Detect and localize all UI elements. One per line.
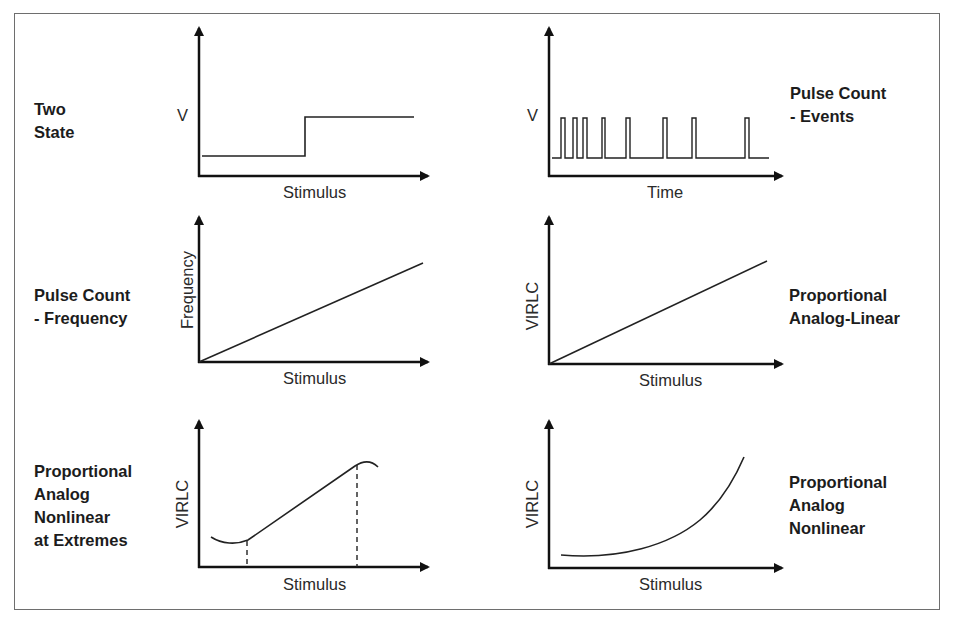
pulse-train	[552, 118, 769, 158]
step-curve	[202, 117, 414, 156]
analog-linear-plot	[548, 217, 782, 365]
panel-title-two-state: Two State	[34, 98, 74, 144]
y-axis-label: VIRLC	[523, 474, 541, 534]
two-state-plot	[198, 28, 428, 177]
panel-title-analog-linear: Proportional Analog-Linear	[789, 284, 900, 330]
title-line: Proportional	[34, 460, 132, 483]
title-line: Analog	[789, 494, 887, 517]
title-line: at Extremes	[34, 529, 132, 552]
x-axis-label: Stimulus	[283, 369, 346, 387]
x-axis-label: Time	[647, 183, 683, 201]
x-axis-label: Stimulus	[639, 575, 702, 593]
linear-curve	[199, 263, 423, 362]
sigmoid-curve	[211, 462, 378, 543]
y-axis-label: Frequency	[178, 250, 196, 330]
analog-nonlinear-plot	[548, 421, 782, 569]
pulse-events-plot	[548, 28, 782, 177]
x-axis-label: Stimulus	[283, 575, 346, 593]
title-line: Analog	[34, 483, 132, 506]
title-line: Nonlinear	[789, 517, 887, 540]
title-line: - Events	[790, 105, 886, 128]
title-line: - Frequency	[34, 307, 130, 330]
title-line: Proportional	[789, 471, 887, 494]
exponential-curve	[561, 457, 744, 556]
panel-title-pulse-events: Pulse Count - Events	[790, 82, 886, 128]
y-axis-label: V	[177, 106, 188, 124]
analog-nonlinear-extremes-plot	[198, 421, 428, 568]
title-line: State	[34, 121, 74, 144]
panel-title-analog-nonlinear: Proportional Analog Nonlinear	[789, 471, 887, 540]
x-axis-label: Stimulus	[283, 183, 346, 201]
y-axis-label: V	[527, 106, 538, 124]
linear-curve	[549, 261, 767, 364]
panel-title-analog-nonlinear-extremes: Proportional Analog Nonlinear at Extreme…	[34, 460, 132, 552]
title-line: Nonlinear	[34, 506, 132, 529]
title-line: Proportional	[789, 284, 900, 307]
title-line: Analog-Linear	[789, 307, 900, 330]
y-axis-label: VIRLC	[173, 474, 191, 534]
panel-title-pulse-frequency: Pulse Count - Frequency	[34, 284, 130, 330]
y-axis-label: VIRLC	[523, 276, 541, 336]
title-line: Pulse Count	[790, 82, 886, 105]
pulse-frequency-plot	[198, 217, 428, 363]
title-line: Two	[34, 98, 74, 121]
x-axis-label: Stimulus	[639, 371, 702, 389]
title-line: Pulse Count	[34, 284, 130, 307]
